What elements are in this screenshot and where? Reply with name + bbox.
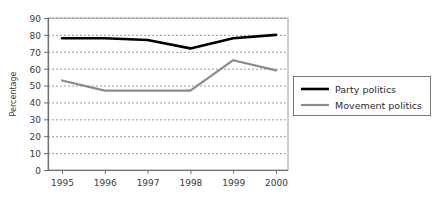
y-tick-label-50: 50 xyxy=(30,81,42,91)
x-tick-label-1997: 1997 xyxy=(137,178,160,188)
legend-label-0: Party politics xyxy=(335,84,396,95)
legend-label-1: Movement politics xyxy=(335,100,422,111)
y-tick-label-30: 30 xyxy=(30,115,42,125)
chart-container: 0102030405060708090Percentage19951996199… xyxy=(0,0,434,202)
y-tick-label-90: 90 xyxy=(30,14,42,24)
x-tick-label-1998: 1998 xyxy=(179,178,202,188)
y-tick-label-20: 20 xyxy=(30,132,42,142)
y-tick-label-10: 10 xyxy=(30,149,42,159)
y-tick-label-40: 40 xyxy=(30,98,42,108)
y-tick-label-0: 0 xyxy=(35,166,41,176)
y-axis-title: Percentage xyxy=(9,71,18,116)
plot-area-frame xyxy=(48,18,288,170)
y-tick-label-80: 80 xyxy=(30,31,42,41)
x-tick-label-1995: 1995 xyxy=(51,178,74,188)
y-tick-label-70: 70 xyxy=(30,48,42,58)
x-tick-label-1999: 1999 xyxy=(222,178,245,188)
x-tick-label-1996: 1996 xyxy=(94,178,117,188)
x-tick-label-2000: 2000 xyxy=(265,178,288,188)
line-chart: 0102030405060708090Percentage19951996199… xyxy=(0,0,434,202)
y-tick-label-60: 60 xyxy=(30,65,42,75)
